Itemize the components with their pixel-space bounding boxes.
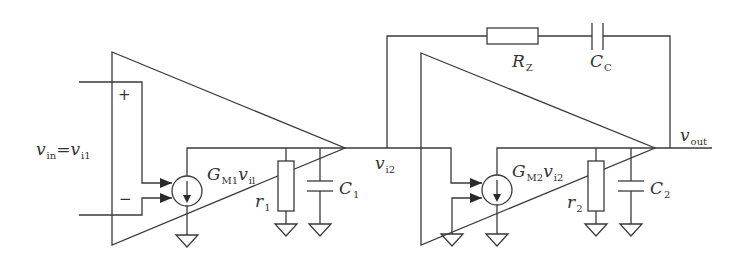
arrow-head-icon: [160, 193, 172, 203]
resistor-r2: [588, 161, 604, 211]
feedback-wire-left: [387, 36, 487, 148]
ground-icon: [620, 224, 642, 236]
resistor-rz: [487, 28, 538, 44]
resistor-r1: [278, 161, 294, 211]
vout-label: vout: [680, 127, 707, 147]
stage2-input-plus-wire: [387, 148, 482, 183]
rz-label: RZ: [512, 53, 533, 73]
ground-icon: [585, 224, 607, 236]
ground-icon: [275, 224, 297, 236]
stage2-input-minus-wire: [452, 198, 482, 234]
minus-sign: −: [119, 192, 132, 207]
input-label: vin=vi1: [36, 141, 91, 161]
arrow-head-icon: [470, 178, 482, 188]
c2-label: C2: [650, 180, 670, 200]
amplifier-2-triangle: [421, 53, 655, 245]
r2-label: r2: [567, 194, 583, 214]
plus-sign: +: [118, 88, 131, 103]
vi2-label: vi2: [375, 155, 395, 175]
arrow-head-icon: [160, 178, 172, 188]
cc-label: CC: [590, 53, 612, 73]
arrow-head-icon: [470, 193, 482, 203]
c1-label: C1: [339, 180, 359, 200]
ground-icon: [486, 234, 508, 246]
gm2-label: GM2vi2: [512, 163, 563, 183]
ground-icon: [176, 235, 198, 247]
circuit-diagram: vin=vi1 + − GM1vil r1 C1 vi2 RZ CC GM2vi…: [0, 0, 744, 265]
ground-icon: [309, 224, 331, 236]
schematic-svg: [0, 0, 744, 265]
r1-label: r1: [255, 193, 271, 213]
gm1-label: GM1vil: [207, 166, 255, 186]
